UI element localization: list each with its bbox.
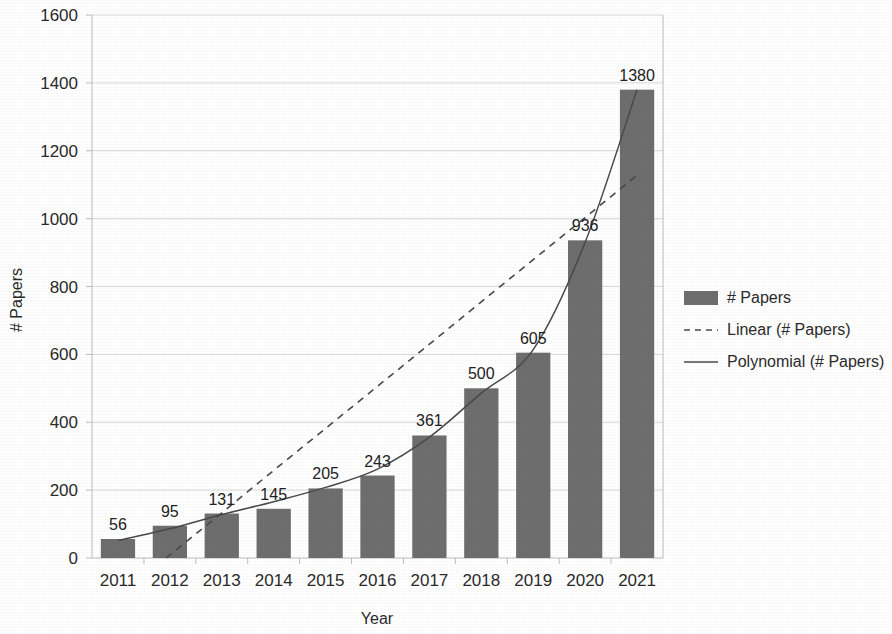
y-axis-tick-label: 400 xyxy=(50,413,78,432)
x-axis-tick-label: 2018 xyxy=(462,571,500,590)
legend-item: # Papers xyxy=(684,289,791,306)
x-axis-tick-label: 2017 xyxy=(410,571,448,590)
bar xyxy=(153,526,187,558)
bar xyxy=(568,240,602,558)
bar xyxy=(464,388,498,558)
y-axis-title: # Papers xyxy=(8,268,25,332)
x-axis-title: Year xyxy=(361,610,394,627)
legend-bar-swatch-icon xyxy=(684,291,718,305)
bar xyxy=(412,435,446,558)
y-axis-tick-label: 1000 xyxy=(40,210,78,229)
bar-value-label: 131 xyxy=(208,491,235,508)
legend-item-label: # Papers xyxy=(727,289,791,306)
x-axis-tick-label: 2019 xyxy=(514,571,552,590)
legend-item-label: Linear (# Papers) xyxy=(727,321,851,338)
y-axis-tick-label: 0 xyxy=(69,549,78,568)
x-axis-tick-label: 2013 xyxy=(203,571,241,590)
y-axis-tick-label: 1400 xyxy=(40,74,78,93)
x-axis-tick-label: 2011 xyxy=(100,571,137,590)
x-axis-tick-label: 2021 xyxy=(618,571,656,590)
bar-value-label: 936 xyxy=(572,217,599,234)
papers-per-year-chart: 02004006008001000120014001600 2011201220… xyxy=(0,0,892,634)
bar-value-label: 205 xyxy=(312,465,339,482)
bar xyxy=(101,539,135,558)
x-axis-tick-label: 2012 xyxy=(151,571,189,590)
bar-value-label: 95 xyxy=(161,503,179,520)
chart-container: 02004006008001000120014001600 2011201220… xyxy=(0,0,892,634)
bar-value-label: 605 xyxy=(520,330,547,347)
x-axis-tick-label: 2020 xyxy=(566,571,604,590)
y-axis-tick-label: 800 xyxy=(50,278,78,297)
y-axis-tick-label: 200 xyxy=(50,481,78,500)
y-axis-tick-label: 1200 xyxy=(40,142,78,161)
bar-value-label: 1380 xyxy=(619,67,655,84)
bar xyxy=(257,509,291,558)
bar xyxy=(360,476,394,558)
x-axis-tick-label: 2014 xyxy=(255,571,293,590)
bar-value-label: 145 xyxy=(260,486,287,503)
x-axis-tick-label: 2015 xyxy=(307,571,345,590)
bar xyxy=(205,514,239,558)
x-axis-tick-label: 2016 xyxy=(359,571,397,590)
bar-value-label: 56 xyxy=(109,516,127,533)
bar xyxy=(620,90,654,558)
bar xyxy=(516,353,550,558)
bar-value-label: 361 xyxy=(416,412,443,429)
bar xyxy=(308,488,342,558)
y-axis-tick-label: 1600 xyxy=(40,6,78,25)
y-axis-tick-label: 600 xyxy=(50,345,78,364)
bar-value-label: 500 xyxy=(468,365,495,382)
bar-value-label: 243 xyxy=(364,453,391,470)
legend-item-label: Polynomial (# Papers) xyxy=(727,353,884,370)
